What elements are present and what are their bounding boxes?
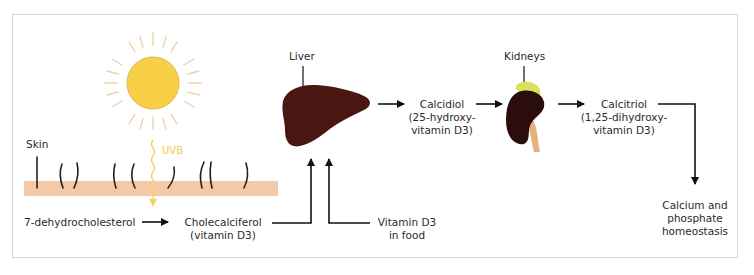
sun-icon — [105, 33, 201, 129]
liver-icon — [282, 85, 370, 146]
liver-label: Liver — [289, 50, 315, 63]
uvb-label: UVB — [162, 144, 183, 157]
kidney-icon — [506, 81, 544, 152]
node-7-dehydrocholesterol: 7-dehydrocholesterol — [24, 216, 135, 229]
node-cholecalciferol: Cholecalciferol (vitamin D3) — [179, 216, 267, 242]
node-vitamin-d3-food: Vitamin D3 in food — [372, 216, 442, 242]
kidneys-label: Kidneys — [504, 50, 545, 63]
arrow-icon — [329, 159, 370, 223]
skin-label: Skin — [26, 138, 48, 151]
node-calcitriol: Calcitriol (1,25-dihydroxy- vitamin D3) — [580, 98, 668, 137]
node-calcium-phosphate-homeostasis: Calcium and phosphate homeostasis — [650, 199, 740, 238]
node-calcidiol: Calcidiol (25-hydroxy- vitamin D3) — [404, 98, 480, 137]
